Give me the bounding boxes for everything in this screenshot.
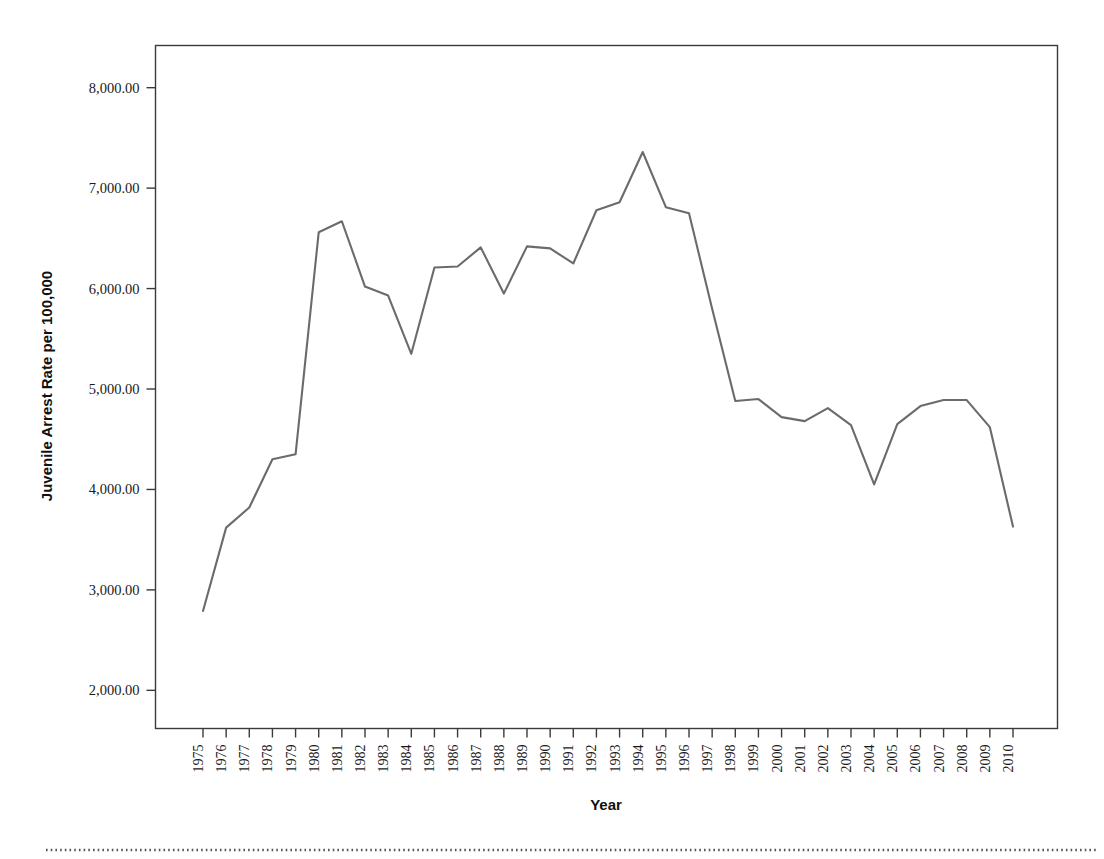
x-axis-tick-label: 1995 xyxy=(654,745,669,773)
x-axis-tick-label: 1992 xyxy=(584,745,599,773)
x-axis-tick-label: 1985 xyxy=(422,745,437,773)
x-axis-tick-label: 2009 xyxy=(978,745,993,773)
x-axis-tick-label: 2005 xyxy=(885,745,900,773)
x-axis-tick-label: 1988 xyxy=(492,745,507,773)
y-axis-tick-label: 3,000.00 xyxy=(89,582,140,598)
y-axis-tick-label: 7,000.00 xyxy=(89,180,140,196)
y-axis-tick-label: 6,000.00 xyxy=(89,281,140,297)
x-axis-tick-label: 1984 xyxy=(399,745,414,773)
line-chart: 2,000.003,000.004,000.005,000.006,000.00… xyxy=(0,0,1104,859)
y-axis-tick-label: 8,000.00 xyxy=(89,80,140,96)
x-axis-title: Year xyxy=(590,796,622,813)
x-axis-tick-label: 1997 xyxy=(700,745,715,773)
x-axis-tick-label: 2010 xyxy=(1001,745,1016,773)
y-axis-title: Juvenile Arrest Rate per 100,000 xyxy=(38,271,55,501)
x-axis-tick-label: 1987 xyxy=(469,745,484,773)
x-axis-tick-label: 1990 xyxy=(538,745,553,773)
x-axis-tick-label: 2003 xyxy=(839,745,854,773)
x-axis-tick-label: 1982 xyxy=(353,745,368,773)
x-axis-tick-label: 1996 xyxy=(677,745,692,773)
x-axis-tick-label: 1977 xyxy=(237,745,252,773)
x-axis-tick-label: 1981 xyxy=(330,745,345,773)
x-axis-tick-label: 2001 xyxy=(793,745,808,773)
x-axis-tick-label: 1991 xyxy=(561,745,576,773)
x-axis-tick-label: 1983 xyxy=(376,745,391,773)
chart-background xyxy=(0,0,1104,859)
x-axis-tick-label: 1994 xyxy=(631,745,646,773)
x-axis-tick-label: 2008 xyxy=(955,745,970,773)
y-axis-tick-label: 2,000.00 xyxy=(89,682,140,698)
x-axis-tick-label: 2006 xyxy=(908,745,923,773)
x-axis-tick-label: 2002 xyxy=(816,745,831,773)
x-axis-tick-label: 1999 xyxy=(746,745,761,773)
x-axis-tick-label: 1978 xyxy=(260,745,275,773)
y-axis-tick-label: 5,000.00 xyxy=(89,381,140,397)
x-axis-tick-label: 1989 xyxy=(515,745,530,773)
x-axis-tick-label: 1986 xyxy=(446,745,461,773)
chart-container: 2,000.003,000.004,000.005,000.006,000.00… xyxy=(0,0,1104,859)
x-axis-tick-label: 2000 xyxy=(770,745,785,773)
x-axis-tick-label: 1998 xyxy=(723,745,738,773)
x-axis-tick-label: 2007 xyxy=(932,745,947,773)
x-axis-tick-label: 1979 xyxy=(284,745,299,773)
x-axis-tick-label: 1980 xyxy=(307,745,322,773)
x-axis-tick-label: 1975 xyxy=(191,745,206,773)
x-axis-tick-label: 1993 xyxy=(608,745,623,773)
y-axis-tick-label: 4,000.00 xyxy=(89,481,140,497)
x-axis-tick-label: 2004 xyxy=(862,745,877,773)
x-axis-tick-label: 1976 xyxy=(214,745,229,773)
